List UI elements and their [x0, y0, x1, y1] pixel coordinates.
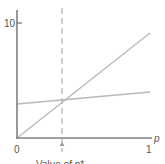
chart: 10 0 1 p Value of p* [0, 0, 165, 164]
x-axis-label: p [153, 133, 160, 144]
bottom-caption: Value of p* [36, 159, 84, 164]
x-tick-label-1: 1 [146, 144, 152, 155]
marker-arrow-icon [60, 142, 65, 146]
shallow-line [17, 92, 150, 104]
steep-line [17, 33, 150, 138]
y-tick-label-10: 10 [4, 18, 16, 29]
x-tick-label-0: 0 [14, 144, 20, 155]
